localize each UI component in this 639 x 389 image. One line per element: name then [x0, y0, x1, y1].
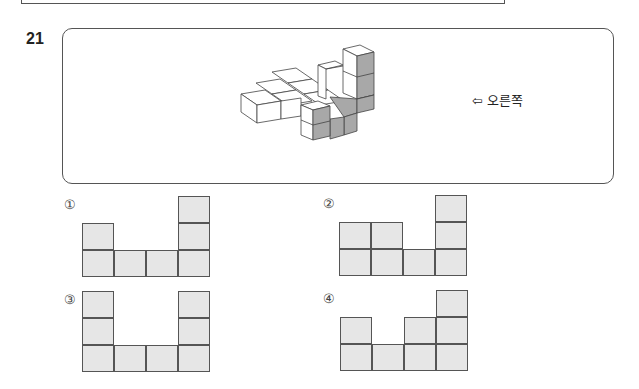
- grid-cell: [435, 195, 467, 222]
- isometric-cube-stack-figure: [63, 29, 613, 183]
- grid-cell: [436, 317, 468, 344]
- grid-cell: [82, 223, 114, 250]
- grid-cell: [403, 249, 435, 276]
- grid-cell: [436, 344, 468, 371]
- grid-cell: [146, 250, 178, 277]
- question-number: 21: [26, 30, 44, 48]
- grid-cell: [82, 345, 114, 372]
- grid-cell: [114, 345, 146, 372]
- option-number: ①: [64, 197, 76, 212]
- grid-cell: [339, 222, 371, 249]
- grid-cell: [371, 249, 403, 276]
- option-number: ④: [323, 291, 335, 306]
- option-number: ②: [323, 196, 335, 211]
- grid-cell: [340, 344, 372, 371]
- grid-cell: [436, 290, 468, 317]
- grid-cell: [178, 196, 210, 223]
- grid-cell: [178, 345, 210, 372]
- direction-label: ⇦오른쪽: [472, 90, 523, 109]
- grid-cell: [339, 249, 371, 276]
- grid-cell: [178, 318, 210, 345]
- previous-question-box: [21, 0, 505, 4]
- grid-cell: [114, 250, 146, 277]
- grid-cell: [340, 317, 372, 344]
- grid-cell: [82, 318, 114, 345]
- grid-cell: [435, 222, 467, 249]
- grid-cell: [404, 317, 436, 344]
- grid-cell: [82, 291, 114, 318]
- grid-cell: [178, 250, 210, 277]
- grid-cell: [146, 345, 178, 372]
- direction-text: 오른쪽: [487, 93, 523, 108]
- question-figure-frame: ⇦오른쪽: [62, 28, 614, 184]
- grid-cell: [82, 250, 114, 277]
- left-arrow-icon: ⇦: [472, 93, 483, 108]
- grid-cell: [435, 249, 467, 276]
- grid-cell: [372, 344, 404, 371]
- grid-cell: [178, 291, 210, 318]
- grid-cell: [404, 344, 436, 371]
- grid-cell: [178, 223, 210, 250]
- grid-cell: [371, 222, 403, 249]
- option-number: ③: [64, 292, 76, 307]
